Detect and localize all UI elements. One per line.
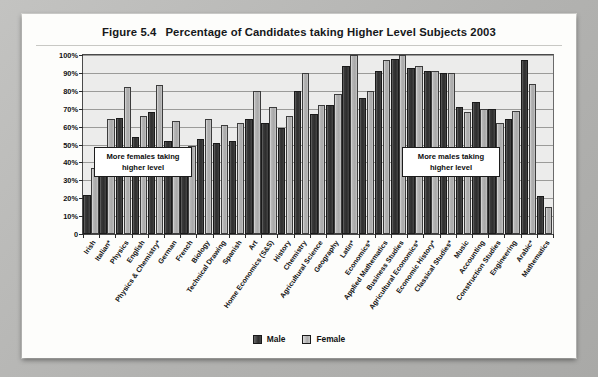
page-title: Figure 5.4Percentage of Candidates takin…: [22, 26, 576, 38]
bar-chart: 010%20%30%40%50%60%70%80%90%100% IrishIt…: [32, 47, 566, 347]
x-axis-tick: [537, 234, 538, 238]
bar-female: [253, 91, 260, 234]
x-axis-tick: [132, 234, 133, 238]
bar-male: [229, 141, 236, 234]
y-axis-tick-label: 90%: [63, 68, 78, 77]
bar-female: [512, 111, 519, 235]
x-axis-tick: [277, 234, 278, 238]
bar-male: [505, 119, 512, 234]
x-axis-tick: [294, 234, 295, 238]
bar-male: [326, 105, 333, 234]
bar-male: [391, 59, 398, 234]
bar-male: [213, 143, 220, 234]
bar-group: Geography: [326, 55, 342, 234]
x-axis-tick: [440, 234, 441, 238]
x-axis-tick-label: Art: [247, 239, 259, 252]
bar-female: [221, 125, 228, 234]
y-axis-tick-label: 100%: [59, 51, 78, 60]
y-axis-tick-label: 50%: [63, 140, 78, 149]
bar-male: [537, 196, 544, 234]
bar-male: [278, 128, 285, 234]
bar-group: Spanish: [229, 55, 245, 234]
x-axis-tick: [180, 234, 181, 238]
bar-male: [294, 91, 301, 234]
x-axis-tick: [423, 234, 424, 238]
bar-group: Arabic*: [521, 55, 537, 234]
x-axis-tick: [83, 234, 84, 238]
bar-group: Biology: [196, 55, 212, 234]
bar-group: Music: [456, 55, 472, 234]
legend-swatch-male-icon: [253, 335, 262, 344]
bar-female: [545, 207, 552, 234]
x-axis-tick: [391, 234, 392, 238]
bar-female: [237, 123, 244, 234]
legend-label-female: Female: [316, 334, 345, 344]
bar-female: [205, 119, 212, 234]
bar-male: [261, 123, 268, 234]
bar-female: [350, 55, 357, 234]
x-axis-tick: [472, 234, 473, 238]
x-axis-tick: [456, 234, 457, 238]
gridline: 0: [83, 234, 553, 235]
bar-group: Agricultural Science: [310, 55, 326, 234]
bar-group: Art: [245, 55, 261, 234]
bar-female: [286, 116, 293, 234]
x-axis-tick: [229, 234, 230, 238]
y-axis-tick-label: 0: [74, 230, 78, 239]
x-axis-tick: [375, 234, 376, 238]
bar-group: English: [132, 55, 148, 234]
x-axis-tick: [342, 234, 343, 238]
bar-group: History: [277, 55, 293, 234]
bar-female: [318, 105, 325, 234]
bar-group: Technical Drawing: [213, 55, 229, 234]
bar-female: [91, 168, 98, 234]
bar-female: [302, 73, 309, 234]
bar-series-container: IrishItalian*PhysicsEnglishPhysics & Che…: [83, 55, 553, 234]
annotation-more-males: More males takinghigher level: [402, 147, 500, 177]
bar-group: Agricultural Economics*: [407, 55, 423, 234]
x-axis-tick: [521, 234, 522, 238]
chart-legend: Male Female: [32, 334, 566, 344]
x-axis-tick: [196, 234, 197, 238]
bar-male: [83, 195, 90, 234]
bar-group: French: [180, 55, 196, 234]
bar-group: Construction Studies: [488, 55, 504, 234]
bar-group: Irish: [83, 55, 99, 234]
bar-female: [496, 123, 503, 234]
bar-female: [367, 91, 374, 234]
y-axis-tick-label: 20%: [63, 194, 78, 203]
x-axis-tick: [261, 234, 262, 238]
x-axis-tick: [504, 234, 505, 238]
title-divider: [36, 45, 562, 46]
bar-group: Classical Studies*: [440, 55, 456, 234]
bar-group: Italian*: [99, 55, 115, 234]
bar-group: Chemistry: [294, 55, 310, 234]
plot-area: 010%20%30%40%50%60%70%80%90%100% IrishIt…: [82, 54, 554, 235]
bar-group: Accounting: [472, 55, 488, 234]
annotation-more-females: More females takinghigher level: [94, 147, 192, 177]
bar-female: [529, 84, 536, 234]
figure-title-text: Percentage of Candidates taking Higher L…: [165, 26, 495, 38]
x-axis-tick: [553, 234, 554, 238]
bar-group: Mathematics: [537, 55, 553, 234]
bar-group: German: [164, 55, 180, 234]
y-axis-tick-label: 60%: [63, 122, 78, 131]
legend-item-female: Female: [302, 334, 345, 344]
x-axis-tick: [213, 234, 214, 238]
y-axis-tick-label: 40%: [63, 158, 78, 167]
x-axis-tick: [488, 234, 489, 238]
bar-female: [172, 121, 179, 234]
bar-male: [359, 98, 366, 234]
bar-female: [269, 107, 276, 234]
bar-group: Economics*: [359, 55, 375, 234]
bar-male: [375, 71, 382, 234]
x-axis-tick: [326, 234, 327, 238]
y-axis-tick-label: 80%: [63, 86, 78, 95]
bar-male: [342, 66, 349, 234]
bar-female: [383, 60, 390, 234]
bar-male: [197, 139, 204, 234]
bar-group: Business Studies: [391, 55, 407, 234]
screenshot-page: Figure 5.4Percentage of Candidates takin…: [0, 0, 598, 377]
legend-item-male: Male: [253, 334, 286, 344]
y-axis-tick-label: 30%: [63, 176, 78, 185]
